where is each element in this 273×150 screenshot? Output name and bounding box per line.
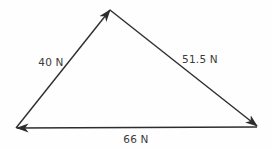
force-vector-66n: [17, 127, 257, 128]
force-vector-40n: [16, 10, 110, 128]
force-vector-51-5n: [110, 10, 257, 126]
force-triangle-diagram: 40 N 51.5 N 66 N: [0, 0, 273, 150]
force-label-51-5n: 51.5 N: [182, 53, 218, 65]
force-label-40n: 40 N: [38, 56, 63, 68]
diagram-svg: 40 N 51.5 N 66 N: [0, 0, 273, 150]
force-label-66n: 66 N: [123, 133, 148, 145]
